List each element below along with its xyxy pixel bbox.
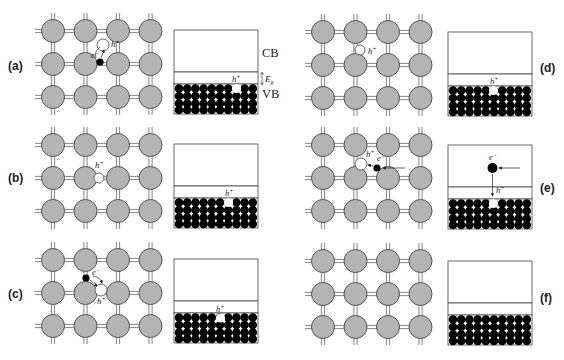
- electron-icon: [373, 164, 380, 171]
- band-diagram-b: [174, 144, 258, 228]
- panel-a: (a) e− h+ h+ CB VB Eg: [8, 13, 279, 115]
- hole-label: h+: [368, 46, 377, 57]
- panel-c: (c) e− h+ h+: [8, 242, 258, 344]
- hole-icon: [355, 45, 365, 55]
- panel-label-a: (a): [8, 59, 23, 73]
- hole-label: h+: [111, 39, 120, 50]
- band-diagram-d: [448, 32, 532, 116]
- band-diagram-c: [174, 259, 258, 343]
- band-diagram-a: [174, 30, 258, 114]
- vb-hole-icon: [224, 198, 233, 207]
- panel-b: (b) h+ h+: [8, 127, 258, 229]
- electron-label: e−: [377, 153, 385, 164]
- panel-d: h+ h+ (d): [305, 14, 555, 116]
- vb-hole-icon: [216, 313, 225, 322]
- lattice-e: [305, 127, 432, 229]
- hole-label: h+: [95, 160, 104, 171]
- panel-label-d: (d): [540, 61, 555, 75]
- energy-gap-label: Eg: [264, 74, 274, 85]
- hole-icon: [355, 158, 367, 170]
- electron-label: e−: [92, 267, 100, 278]
- hole-label: h+: [366, 149, 375, 160]
- panel-f: (f): [305, 243, 552, 345]
- panel-label-f: (f): [540, 291, 552, 305]
- cb-label: CB: [262, 46, 279, 60]
- arrow-icon: [93, 276, 102, 283]
- figure-canvas: (a) e− h+ h+ CB VB Eg (b) h+ h+ (c) e− h: [0, 0, 564, 360]
- panel-e: h+ e− e− h+ (e): [305, 127, 555, 229]
- vb-label: VB: [262, 87, 279, 101]
- hole-icon: [94, 173, 104, 183]
- lattice-d: [305, 14, 432, 116]
- panel-label-c: (c): [8, 287, 23, 301]
- cb-electron-icon: [488, 163, 498, 173]
- band-diagram-f: [448, 261, 532, 345]
- vb-hole-icon: [489, 86, 498, 95]
- panel-label-e: (e): [540, 181, 555, 195]
- lattice-f: [305, 243, 432, 345]
- electron-icon: [82, 274, 89, 281]
- electron-icon: [96, 58, 103, 65]
- panel-label-b: (b): [8, 171, 23, 185]
- arrow-icon: [368, 165, 373, 166]
- vb-hole-icon: [232, 84, 241, 93]
- vb-hole-icon: [489, 199, 498, 208]
- hole-label: h+: [97, 296, 106, 307]
